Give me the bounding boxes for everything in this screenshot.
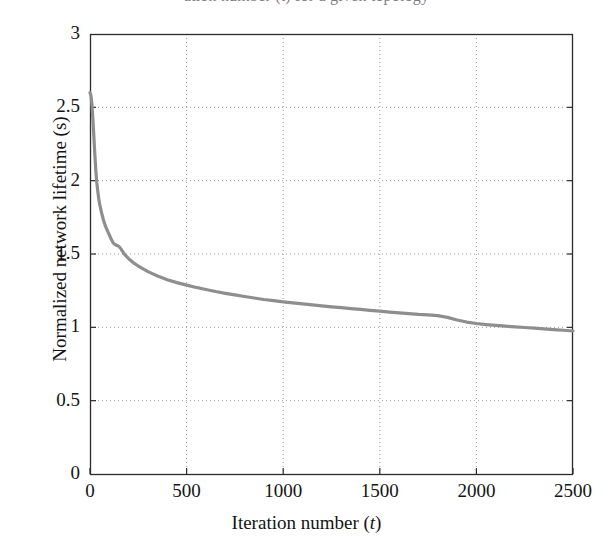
x-tick-label: 1000 (243, 480, 323, 502)
figure-container: ation number (t) for a given topology No… (0, 0, 613, 555)
x-tick-label: 500 (147, 480, 227, 502)
y-tick-label: 2 (20, 169, 80, 191)
x-tick-label: 2500 (533, 480, 613, 502)
x-tick-label: 2000 (436, 480, 516, 502)
y-tick-label: 0 (20, 462, 80, 484)
data-series-group (90, 93, 573, 331)
x-tick-label: 1500 (340, 480, 420, 502)
line-chart-plot (0, 0, 613, 555)
y-tick-label: 2.5 (20, 95, 80, 117)
gridlines-group (90, 34, 573, 474)
y-tick-label: 0.5 (20, 389, 80, 411)
y-tick-label: 1.5 (20, 242, 80, 264)
x-axis-title-tail: ) (375, 512, 381, 533)
x-axis-title-text: Iteration number ( (232, 512, 370, 533)
series-line-0 (90, 93, 573, 331)
y-tick-label: 1 (20, 315, 80, 337)
axis-ticks-group (90, 107, 573, 474)
x-axis-title: Iteration number (t) (0, 512, 613, 534)
y-tick-label: 3 (20, 22, 80, 44)
